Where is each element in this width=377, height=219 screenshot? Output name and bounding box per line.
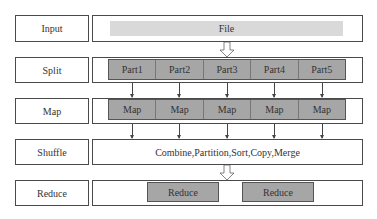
shuffle-row: Combine,Partition,Sort,Copy,Merge <box>92 139 363 165</box>
hollow-down-arrow-icon <box>219 165 235 181</box>
down-arrow-icon <box>132 124 133 138</box>
reduce-task: Reduce <box>242 182 314 202</box>
down-arrow-icon <box>227 124 228 138</box>
split-part: Part4 <box>251 60 298 79</box>
map-task: Map <box>204 100 251 119</box>
file-label: File <box>219 23 235 34</box>
stage-label-shuffle: Shuffle <box>15 139 89 165</box>
stage-label-reduce: Reduce <box>15 180 89 206</box>
stage-label-text: Shuffle <box>37 147 66 158</box>
stage-label-text: Map <box>43 106 61 117</box>
reduce-row <box>92 180 363 206</box>
stage-label-text: Split <box>43 65 62 76</box>
down-arrow-icon <box>274 124 275 138</box>
stage-label-text: Input <box>41 23 62 34</box>
stage-label-input: Input <box>15 15 89 42</box>
reduce-task: Reduce <box>147 182 219 202</box>
down-arrow-icon <box>132 83 133 97</box>
reduce-label: Reduce <box>168 187 198 198</box>
map-task: Map <box>251 100 298 119</box>
down-arrow-icon <box>227 83 228 97</box>
down-arrow-icon <box>274 83 275 97</box>
hollow-down-arrow-icon <box>219 42 235 58</box>
split-parts: Part1 Part2 Part3 Part4 Part5 <box>108 59 346 80</box>
stage-label-map: Map <box>15 98 89 124</box>
map-task: Map <box>299 100 345 119</box>
file-bar: File <box>110 21 343 36</box>
stage-label-split: Split <box>15 57 89 83</box>
reduce-label: Reduce <box>263 187 293 198</box>
shuffle-steps: Combine,Partition,Sort,Copy,Merge <box>155 147 300 158</box>
split-part: Part3 <box>204 60 251 79</box>
map-task: Map <box>156 100 203 119</box>
map-task: Map <box>109 100 156 119</box>
down-arrow-icon <box>179 83 180 97</box>
down-arrow-icon <box>322 83 323 97</box>
map-tasks: Map Map Map Map Map <box>108 99 346 120</box>
split-part: Part2 <box>156 60 203 79</box>
down-arrow-icon <box>322 124 323 138</box>
down-arrow-icon <box>179 124 180 138</box>
stage-label-text: Reduce <box>37 188 67 199</box>
split-part: Part5 <box>299 60 345 79</box>
split-part: Part1 <box>109 60 156 79</box>
